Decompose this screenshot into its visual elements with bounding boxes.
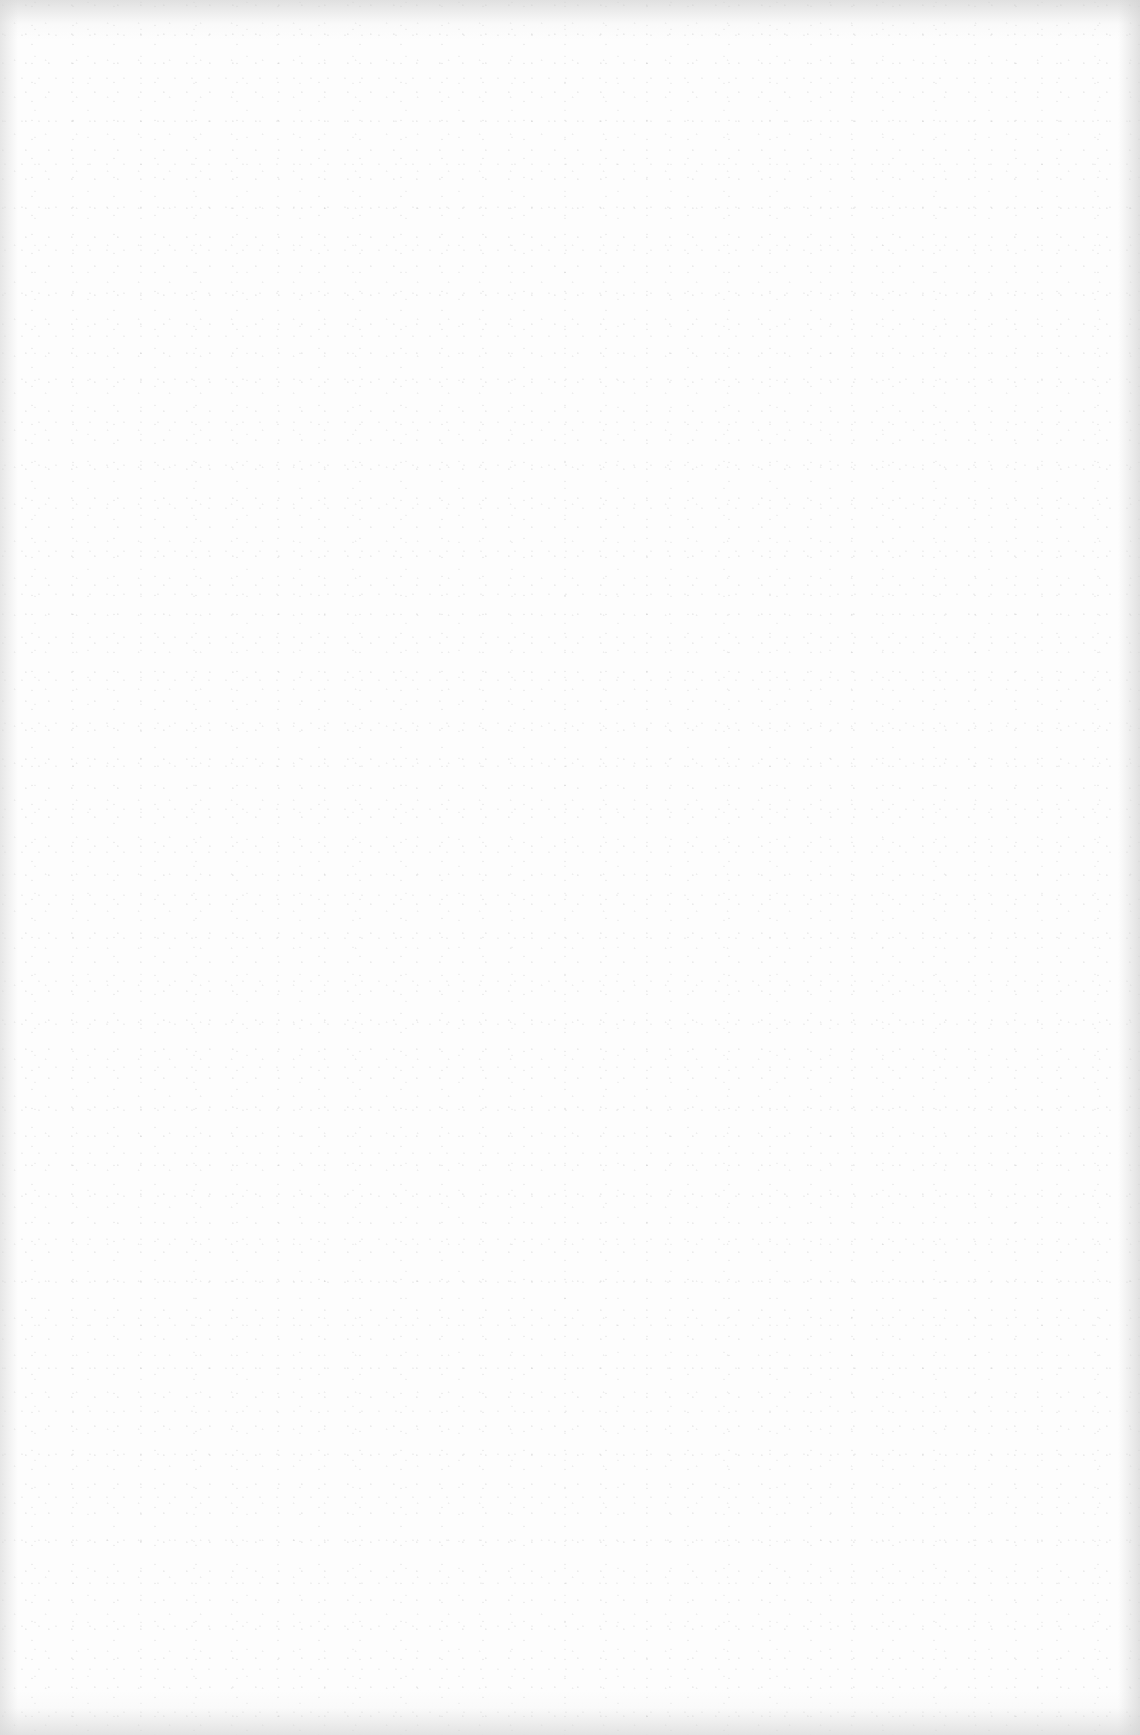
paper-speckle-texture	[0, 0, 1140, 1735]
scan-edge-bottom	[0, 1690, 1140, 1735]
scan-edge-left	[0, 0, 18, 1735]
blank-scanned-page	[0, 0, 1140, 1735]
scan-edge-right	[1118, 0, 1140, 1735]
scan-edge-top	[0, 0, 1140, 40]
